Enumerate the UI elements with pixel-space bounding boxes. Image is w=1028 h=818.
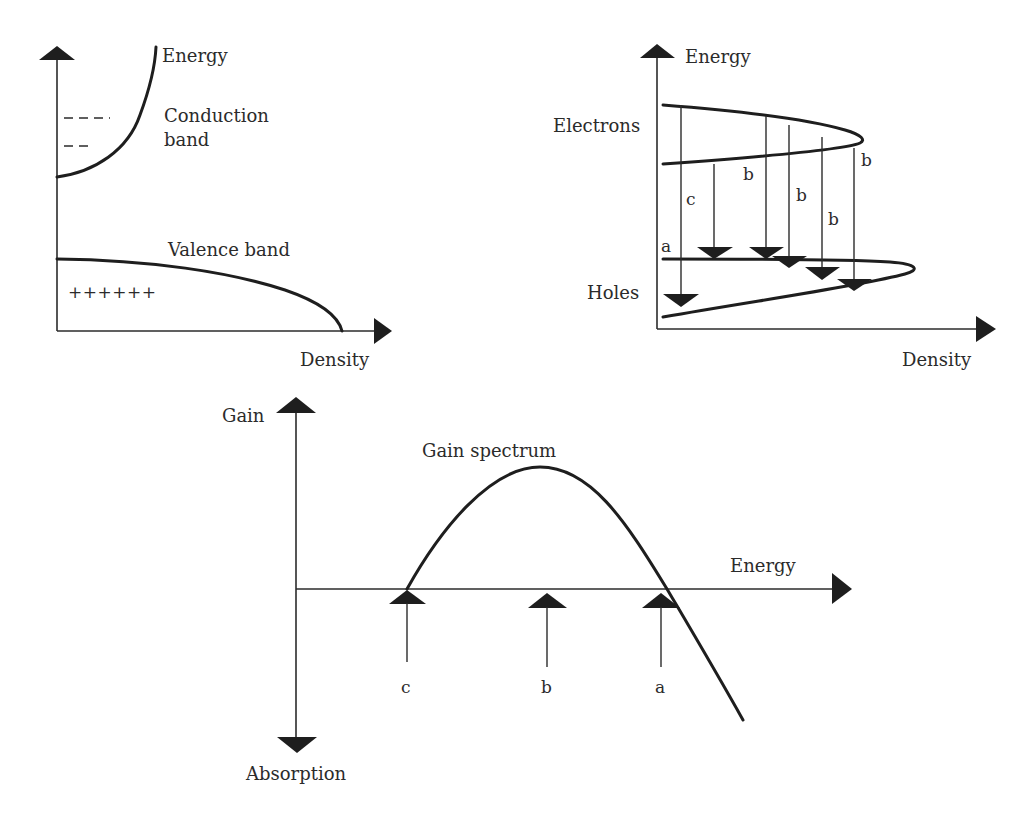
transition-label-b: b — [796, 185, 807, 205]
arrow-down-icon — [697, 247, 733, 259]
electron-distribution-curve — [663, 105, 863, 164]
arrow-down-icon — [805, 267, 840, 280]
marker-b-icon — [528, 593, 567, 608]
density-axis-label: Density — [902, 349, 972, 370]
marker-a-label: a — [655, 677, 665, 697]
energy-axis-label: Energy — [730, 555, 797, 576]
density-axis-label: Density — [300, 349, 370, 370]
arrow-up-icon — [640, 44, 675, 58]
arrow-right-icon — [374, 318, 392, 344]
gain-spectrum-curve — [407, 467, 743, 720]
electrons-label: Electrons — [553, 115, 640, 136]
holes-label: Holes — [587, 282, 639, 303]
absorption-axis-label: Absorption — [245, 763, 347, 784]
arrow-down-icon — [277, 737, 317, 753]
holes-plus-signs: ++++++ — [68, 282, 156, 302]
transition-label-b: b — [828, 209, 839, 229]
conduction-band-label: Conduction — [164, 105, 269, 126]
gain-spectrum-label: Gain spectrum — [422, 440, 556, 461]
transition-label-a: a — [661, 236, 671, 256]
marker-b-label: b — [541, 677, 552, 697]
gain-spectrum-panel: Gain Absorption Energy Gain spectrum c b… — [222, 397, 852, 784]
transitions-panel: Energy Density Electrons Holes a c b b b… — [553, 44, 996, 370]
band-structure-panel: Energy Density Conduction band Valence b… — [39, 45, 392, 370]
arrow-up-icon — [39, 46, 75, 60]
marker-c-label: c — [401, 677, 411, 697]
transition-label-b: b — [861, 150, 872, 170]
energy-axis-label: Energy — [685, 46, 752, 67]
arrow-down-icon — [772, 256, 807, 268]
arrow-down-icon — [663, 294, 699, 307]
semiconductor-gain-diagram: Energy Density Conduction band Valence b… — [0, 0, 1028, 818]
arrow-right-icon — [976, 316, 996, 342]
arrow-up-icon — [276, 397, 316, 413]
gain-axis-label: Gain — [222, 405, 265, 426]
valence-band-label: Valence band — [167, 239, 290, 260]
transition-label-c: c — [686, 189, 696, 209]
transition-label-b: b — [743, 164, 754, 184]
marker-c-icon — [389, 590, 426, 604]
arrow-right-icon — [832, 573, 852, 604]
conduction-band-curve — [57, 47, 156, 177]
conduction-band-label: band — [164, 129, 209, 150]
energy-axis-label: Energy — [162, 45, 229, 66]
arrow-down-icon — [837, 279, 872, 291]
